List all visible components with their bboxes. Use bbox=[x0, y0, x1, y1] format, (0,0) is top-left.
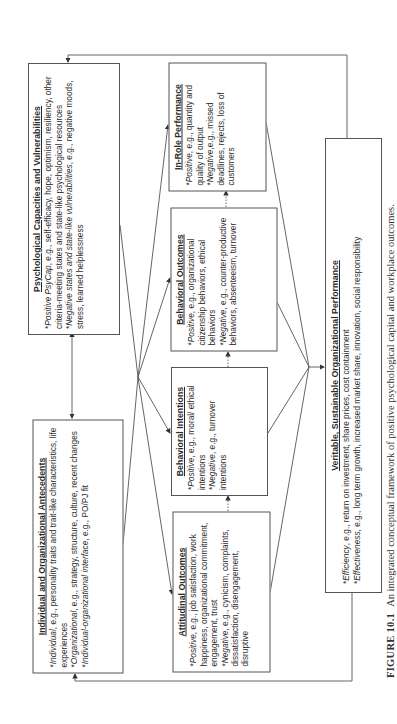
box-title: Individual and Organizational Antecedent… bbox=[36, 425, 46, 667]
box-behavioral-outcomes: Behavioral Outcomes *Positive, e.g., org… bbox=[170, 207, 277, 351]
box-in-role-performance: In-Role Performance *Positive, e.g., qua… bbox=[168, 62, 266, 191]
bullet-positive-psycap: *Positive PsyCap, e.g., self-efficacy, h… bbox=[43, 69, 64, 329]
bullet-effectiveness: *Effectiveness, e.g., long term growth, … bbox=[352, 147, 362, 584]
bullet-negative-states: *Negative states and state-like vulnerab… bbox=[64, 69, 85, 329]
box-title: Behavioral Outcomes bbox=[174, 213, 184, 345]
box-attitudinal-outcomes: Attitudinal Outcomes *Positive, e.g., jo… bbox=[172, 511, 270, 672]
box-title: In-Role Performance bbox=[172, 68, 182, 185]
box-title: Attitudinal Outcomes bbox=[176, 517, 186, 666]
bullet-positive: *Positive, e.g., organizational citizens… bbox=[185, 213, 216, 345]
bullet-negative: *Negative,e.g., missed deadlines, reject… bbox=[204, 68, 235, 185]
bullet-efficiency: *Efficiency, e.g., return on investment,… bbox=[341, 147, 351, 584]
box-psychological-capacities: Psychological Capacities and Vulnerabili… bbox=[28, 63, 120, 335]
bullet-positive: *Positive, e.g., quantity and quality of… bbox=[183, 68, 204, 185]
box-antecedents: Individual and Organizational Antecedent… bbox=[32, 419, 123, 673]
figure-caption: FIGURE 10.1An integrated conceptual fram… bbox=[385, 204, 396, 678]
bullet-negative: *Negative, e.g., turnover intentions bbox=[207, 373, 228, 490]
figure-label: FIGURE 10.1 bbox=[385, 613, 396, 678]
box-behavioral-intentions: Behavioral Intentions *Positive, e.g., m… bbox=[171, 367, 268, 496]
bullet-interface: *Individual-organizational interface, e.… bbox=[79, 425, 89, 667]
bullet-positive: *Positive, e.g., moral/ ethical intentio… bbox=[186, 373, 207, 490]
figure-caption-text: An integrated conceptual framework of po… bbox=[385, 204, 396, 607]
bullet-negative: *Negative, e.g., counter-productive beha… bbox=[217, 213, 238, 345]
box-title: Veritable, Sustainable Organizational Pe… bbox=[330, 147, 340, 584]
bullet-organizational: *Organizational, e.g., strategy, structu… bbox=[68, 425, 78, 667]
bullet-individual: *Individual, e.g., personality traits an… bbox=[47, 425, 68, 667]
box-title: Behavioral Intentions bbox=[175, 373, 185, 490]
box-title: Psychological Capacities and Vulnerabili… bbox=[32, 69, 42, 329]
bullet-negative: *Negative, e.g., cynicism, complaints, d… bbox=[219, 517, 250, 666]
bullet-positive: *Positive, e.g., job satisfaction, work … bbox=[187, 517, 218, 666]
box-veritable-performance: Veritable, Sustainable Organizational Pe… bbox=[325, 138, 382, 593]
